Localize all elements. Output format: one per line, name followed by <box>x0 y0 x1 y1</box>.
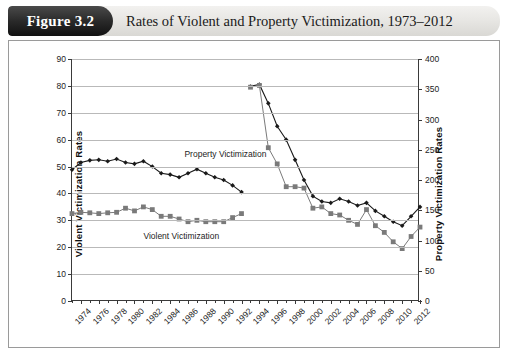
data-point-marker <box>311 194 316 199</box>
data-point-marker <box>391 239 396 244</box>
figure-number-badge: Figure 3.2 <box>8 6 113 36</box>
data-point-marker <box>123 160 128 165</box>
data-point-marker <box>150 207 155 212</box>
x-axis-minor-tick <box>393 300 394 303</box>
y-axis-right-tick: 50 <box>418 266 434 276</box>
data-point-marker <box>114 210 119 215</box>
x-axis-tick <box>134 300 135 304</box>
y-axis-right-tick: 150 <box>418 205 439 215</box>
data-point-marker <box>328 201 333 206</box>
plot-area: 0102030405060708090050100150200250300350… <box>71 59 419 301</box>
data-point-marker <box>409 234 414 239</box>
x-axis-tick-label: 1990 <box>215 306 235 326</box>
y-axis-left-tick: 80 <box>57 81 72 91</box>
x-axis-minor-tick <box>268 300 269 303</box>
data-point-marker <box>79 210 84 215</box>
gridline <box>72 274 418 275</box>
y-axis-left-tick: 40 <box>57 188 72 198</box>
x-axis-tick <box>117 300 118 304</box>
data-point-marker <box>311 206 316 211</box>
x-axis-tick-label: 1978 <box>108 306 128 326</box>
data-point-marker <box>373 223 378 228</box>
x-axis-tick <box>242 300 243 304</box>
data-point-marker <box>105 159 110 164</box>
data-point-marker <box>168 214 173 219</box>
x-axis-minor-tick <box>197 300 198 303</box>
y-axis-left-tick: 70 <box>57 108 72 118</box>
data-point-marker <box>96 211 101 216</box>
x-axis-tick <box>224 300 225 304</box>
y-axis-left-tick: 50 <box>57 162 72 172</box>
x-axis-tick <box>277 300 278 304</box>
x-axis-minor-tick <box>233 300 234 303</box>
data-point-marker <box>293 184 298 189</box>
x-axis-tick-label: 1982 <box>144 306 164 326</box>
x-axis-tick <box>402 300 403 304</box>
data-point-marker <box>266 101 271 106</box>
data-point-marker <box>364 207 369 212</box>
x-axis-tick-label: 2002 <box>322 306 342 326</box>
data-point-marker <box>355 203 360 208</box>
x-axis-tick-label: 1986 <box>180 306 200 326</box>
data-point-marker <box>105 210 110 215</box>
y-axis-left-tick: 30 <box>57 215 72 225</box>
x-axis-minor-tick <box>72 300 73 303</box>
gridline <box>72 193 418 194</box>
x-axis-tick <box>313 300 314 304</box>
gridline <box>72 167 418 168</box>
y-axis-left-tick: 60 <box>57 135 72 145</box>
x-axis-tick-label: 1998 <box>287 306 307 326</box>
data-point-marker <box>382 230 387 235</box>
x-axis-tick-label: 2006 <box>358 306 378 326</box>
data-point-marker <box>418 225 423 230</box>
x-axis-minor-tick <box>108 300 109 303</box>
data-point-marker <box>159 214 164 219</box>
gridline <box>72 140 418 141</box>
gridline <box>72 220 418 221</box>
gridline <box>72 113 418 114</box>
y-axis-left-tick: 20 <box>57 242 72 252</box>
x-axis-tick-label: 2000 <box>305 306 325 326</box>
data-point-marker <box>346 199 351 204</box>
data-point-marker <box>320 199 325 204</box>
data-point-marker <box>132 209 137 214</box>
data-point-marker <box>319 205 324 210</box>
series-inline-label: Property Victimization <box>184 149 266 159</box>
data-point-marker <box>355 222 360 227</box>
x-axis-tick <box>420 300 421 304</box>
data-point-marker <box>302 178 307 183</box>
data-point-marker <box>177 175 182 180</box>
x-axis-tick-label: 1984 <box>162 306 182 326</box>
data-point-marker <box>168 172 173 177</box>
data-point-marker <box>195 167 200 172</box>
gridline <box>72 247 418 248</box>
data-point-marker <box>186 171 191 176</box>
y-axis-right-tick: 350 <box>418 84 439 94</box>
chart-frame: Violent Victimization Rates Property Vic… <box>8 40 500 348</box>
y-axis-right-tick: 400 <box>418 54 439 64</box>
x-axis-tick-label: 1980 <box>126 306 146 326</box>
y-axis-left-tick: 90 <box>57 54 72 64</box>
x-axis-tick <box>366 300 367 304</box>
data-point-marker <box>328 211 333 216</box>
data-point-marker <box>132 162 137 167</box>
x-axis-minor-tick <box>375 300 376 303</box>
data-point-marker <box>88 158 93 163</box>
x-axis-tick <box>206 300 207 304</box>
x-axis-tick <box>349 300 350 304</box>
y-axis-left-tick: 10 <box>57 269 72 279</box>
series-line <box>72 159 242 192</box>
data-point-marker <box>96 158 101 163</box>
figure-title: Rates of Violent and Property Victimizat… <box>126 6 453 36</box>
x-axis-minor-tick <box>179 300 180 303</box>
x-axis-tick-label: 2008 <box>376 306 396 326</box>
x-axis-minor-tick <box>322 300 323 303</box>
x-axis-minor-tick <box>161 300 162 303</box>
x-axis-tick-label: 1992 <box>233 306 253 326</box>
x-axis-tick <box>152 300 153 304</box>
series-lines <box>72 59 420 301</box>
gridline <box>72 59 418 60</box>
x-axis-tick <box>170 300 171 304</box>
x-axis-tick-label: 1994 <box>251 306 271 326</box>
x-axis-tick <box>384 300 385 304</box>
